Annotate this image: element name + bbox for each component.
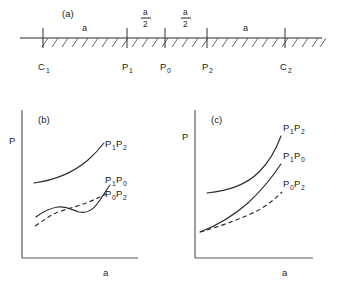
panel-b-label-P0P2-sub-b: 2 (123, 194, 127, 201)
panel-c-curve-P0P2 (200, 192, 282, 232)
panel-c-label-P0P2-base-b: P (294, 178, 300, 189)
tick-label-P0: P 0 (160, 61, 171, 74)
tick-label-P2-base: P (202, 61, 208, 72)
segment-label-a-right: a (243, 23, 248, 33)
panel-b-label-P1P0-sub-b: 0 (123, 180, 127, 187)
figure-root: (a) (0, 0, 339, 287)
panel-b-y-axis-label: P (9, 135, 15, 146)
tick-label-C1: C 1 (38, 61, 50, 74)
panel-c-label-P1P2: P 1 P 2 (283, 122, 305, 135)
tick-label-P0-base: P (160, 61, 166, 72)
fraction-denominator: 2 (143, 20, 148, 29)
panel-b-label-P0P2: P 0 P 2 (105, 188, 127, 201)
tick-label-P1-sub: 1 (129, 67, 133, 74)
panel-c-label-P1P0: P 1 P 0 (283, 150, 305, 163)
tick-label-C1-base: C (38, 61, 45, 72)
panel-c-curve-P1P2 (207, 136, 281, 193)
tick-label-P1: P 1 (122, 61, 133, 74)
panel-b-tag: (b) (38, 114, 50, 125)
panel-b-label-P1P2-base-a: P (105, 138, 111, 149)
panel-b-curve-P1P0 (36, 185, 110, 217)
panel-c-curve-P1P0 (200, 164, 281, 232)
panel-c-label-P1P2-sub-b: 2 (301, 128, 305, 135)
panel-b-label-P0P2-base-b: P (116, 188, 122, 199)
panel-b-label-P1P2-base-b: P (116, 138, 122, 149)
panel-b-curve-P0P2 (35, 194, 106, 226)
fraction-numerator: a (143, 8, 148, 17)
panel-c-label-P0P2-sub-b: 2 (301, 184, 305, 191)
panel-c-label-P0P2: P 0 P 2 (283, 178, 305, 191)
tick-label-C2: C 2 (280, 61, 292, 74)
panel-c-label-P1P0-base-b: P (294, 150, 300, 161)
hatching-group (42, 38, 326, 47)
tick-label-C2-base: C (280, 61, 287, 72)
panel-b: (b) P a P 1 P 2 P 1 P 0 P 0 (9, 110, 138, 278)
panel-b-label-P1P0-base-a: P (105, 174, 111, 185)
panel-b-label-P1P0-base-b: P (116, 174, 122, 185)
tick-label-P2-sub: 2 (209, 67, 213, 74)
tick-label-C1-sub: 1 (46, 67, 50, 74)
panel-b-x-axis-label: a (103, 267, 109, 278)
panel-a: (a) (20, 8, 326, 74)
panel-c-x-axis-label: a (282, 267, 288, 278)
segment-label-a-left: a (82, 23, 87, 33)
panel-b-label-P1P2: P 1 P 2 (105, 138, 127, 151)
panel-b-curve-P1P2 (34, 143, 104, 183)
panel-c-label-P1P0-sub-b: 0 (301, 156, 305, 163)
panel-c-label-P1P0-base-a: P (283, 150, 289, 161)
panel-b-label-P1P2-sub-b: 2 (123, 144, 127, 151)
panel-c: (c) P a P 1 P 2 P 1 P 0 P 0 (182, 110, 313, 278)
fraction-denominator: 2 (183, 20, 188, 29)
segment-label-a-over-2-second: a 2 (181, 8, 191, 29)
panel-c-y-axis-label: P (182, 131, 188, 142)
panel-b-label-P0P2-base-a: P (105, 188, 111, 199)
panel-c-tag: (c) (211, 114, 222, 125)
tick-label-P0-sub: 0 (167, 67, 171, 74)
figure-svg: (a) (0, 0, 339, 287)
panel-c-label-P1P2-base-b: P (294, 122, 300, 133)
panel-c-label-P0P2-base-a: P (283, 178, 289, 189)
segment-label-a-over-2-first: a 2 (141, 8, 151, 29)
tick-label-P2: P 2 (202, 61, 213, 74)
tick-label-P1-base: P (122, 61, 128, 72)
fraction-numerator: a (183, 8, 188, 17)
panel-b-label-P1P0: P 1 P 0 (105, 174, 127, 187)
panel-c-label-P1P2-base-a: P (283, 122, 289, 133)
tick-label-C2-sub: 2 (288, 67, 292, 74)
panel-a-tag: (a) (62, 8, 74, 19)
